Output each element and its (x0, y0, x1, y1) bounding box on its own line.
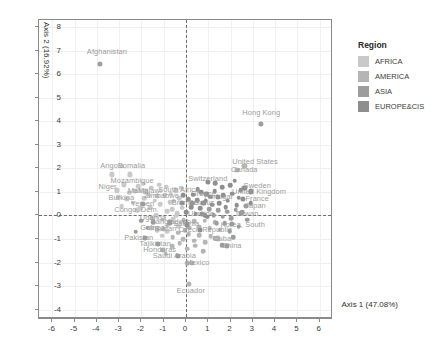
x-tick-mark (230, 319, 231, 322)
gridline-horizontal (39, 27, 331, 28)
point-label: Canada (231, 167, 258, 174)
point-label: Mexico (186, 260, 210, 267)
y-tick-mark (35, 285, 38, 286)
x-tick-label: 6 (316, 324, 320, 333)
scatter-plot-figure: AfghanistanHong KongUnited StatesCanadaA… (0, 0, 442, 358)
point-label: Ukraine (188, 210, 214, 217)
legend-swatch (358, 86, 369, 97)
point-label: Hong Kong (242, 109, 280, 116)
x-tick-label: -2 (137, 324, 144, 333)
reference-line-horizontal (39, 215, 331, 216)
y-tick-label: 7 (57, 45, 61, 54)
x-tick-label: -5 (70, 324, 77, 333)
gridline-horizontal (39, 74, 331, 75)
legend-item-africa[interactable]: AFRICA (358, 56, 440, 67)
y-tick-label: -1 (54, 233, 61, 242)
point-label: Belarus (189, 199, 215, 206)
y-axis-title: Axis 2 (16.92%) (42, 22, 51, 78)
point-label: United States (232, 158, 278, 165)
x-tick-mark (96, 319, 97, 322)
y-tick-mark (35, 238, 38, 239)
y-tick-mark (35, 167, 38, 168)
legend-label: AMERICA (375, 72, 409, 81)
point-label: Switzerland (188, 175, 227, 182)
y-tick-mark (35, 144, 38, 145)
point-label: Taiwan (235, 210, 259, 217)
point-label: Niger (99, 183, 117, 190)
x-tick-label: 5 (294, 324, 298, 333)
point-label: Ecuador (177, 288, 205, 295)
x-tick-label: -1 (159, 324, 166, 333)
x-tick-mark (74, 319, 75, 322)
data-point (177, 241, 182, 246)
gridline-horizontal (39, 51, 331, 52)
y-tick-mark (35, 73, 38, 74)
data-point (170, 207, 175, 212)
legend-item-america[interactable]: AMERICA (358, 71, 440, 82)
point-label: Estonia (174, 221, 199, 228)
y-tick-label: 1 (57, 186, 61, 195)
data-point (216, 208, 221, 213)
plot-area: AfghanistanHong KongUnited StatesCanadaA… (38, 19, 332, 318)
x-tick-label: -6 (48, 324, 55, 333)
data-point (232, 178, 237, 183)
x-tick-mark (118, 319, 119, 322)
data-point (217, 201, 222, 206)
legend-swatch (358, 56, 369, 67)
y-tick-mark (35, 97, 38, 98)
x-tick-label: 4 (272, 324, 276, 333)
data-point (220, 215, 225, 220)
data-point (193, 243, 198, 248)
gridline-horizontal (39, 168, 331, 169)
y-tick-mark (35, 120, 38, 121)
x-tick-mark (207, 319, 208, 322)
y-tick-mark (35, 50, 38, 51)
legend-label: ASIA (375, 87, 392, 96)
y-tick-label: 2 (57, 163, 61, 172)
y-axis-line (38, 19, 39, 318)
legend: Region AFRICAAMERICAASIAEUROPE&CIS (358, 40, 440, 116)
x-tick-label: 2 (227, 324, 231, 333)
x-tick-mark (140, 319, 141, 322)
data-point (220, 185, 225, 190)
x-tick-label: 3 (250, 324, 254, 333)
data-point (225, 209, 230, 214)
x-tick-mark (296, 319, 297, 322)
point-label: Somalia (118, 162, 145, 169)
data-point (170, 235, 175, 240)
y-tick-mark (35, 262, 38, 263)
data-point (231, 235, 236, 240)
legend-swatch (358, 101, 369, 112)
y-tick-label: 4 (57, 116, 61, 125)
x-tick-label: 1 (205, 324, 209, 333)
x-tick-label: -3 (115, 324, 122, 333)
y-tick-label: 3 (57, 139, 61, 148)
reference-line-vertical (186, 20, 187, 317)
point-label: Afghanistan (87, 48, 127, 55)
data-point (201, 249, 206, 254)
y-tick-mark (35, 26, 38, 27)
legend-swatch (358, 71, 369, 82)
y-tick-label: 8 (57, 22, 61, 31)
legend-item-europe-cis[interactable]: EUROPE&CIS (358, 101, 440, 112)
x-tick-mark (51, 319, 52, 322)
legend-item-asia[interactable]: ASIA (358, 86, 440, 97)
y-tick-label: -2 (54, 257, 61, 266)
gridline-horizontal (39, 121, 331, 122)
data-point (203, 240, 208, 245)
gridline-horizontal (39, 310, 331, 311)
y-tick-mark (35, 309, 38, 310)
x-tick-label: -4 (92, 324, 99, 333)
data-point (185, 247, 190, 252)
x-tick-mark (163, 319, 164, 322)
gridline-horizontal (39, 98, 331, 99)
legend-items: AFRICAAMERICAASIAEUROPE&CIS (358, 56, 440, 112)
gridlines (39, 20, 331, 317)
data-point (223, 205, 228, 210)
y-tick-mark (35, 214, 38, 215)
legend-title: Region (358, 40, 440, 50)
y-tick-mark (35, 191, 38, 192)
x-axis-title: Axis 1 (47.08%) (342, 300, 398, 309)
y-tick-label: 5 (57, 92, 61, 101)
y-tick-label: 6 (57, 69, 61, 78)
